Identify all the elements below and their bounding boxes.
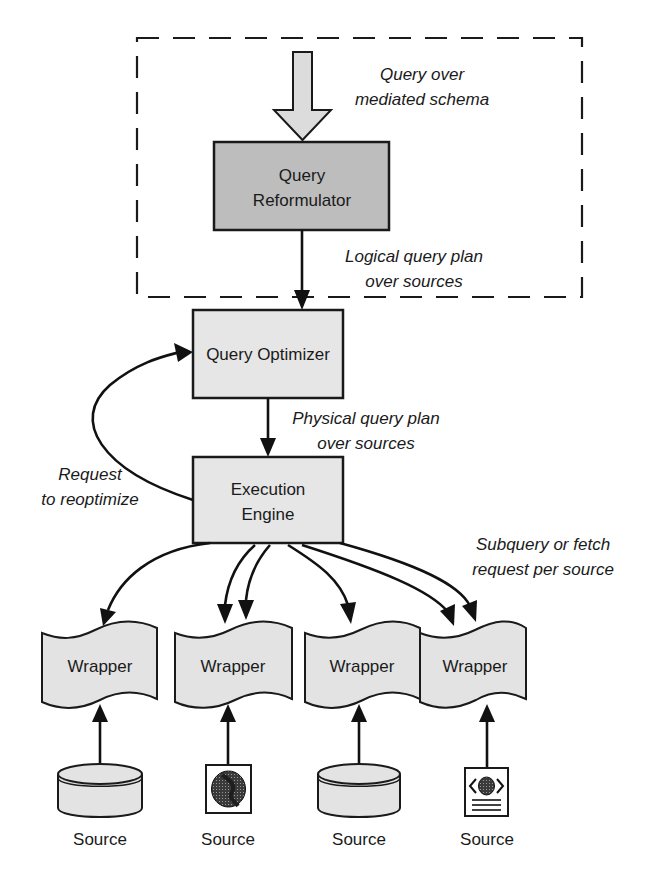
reformulator-label-line2: Reformulator	[253, 191, 352, 210]
subquery-edge-3	[288, 545, 348, 605]
reoptimize-label-line1: Request	[58, 465, 123, 484]
arrowhead-icon	[220, 704, 236, 722]
source-node-4[interactable]: Source	[460, 768, 514, 849]
source-label: Source	[73, 830, 127, 849]
web-document-icon	[465, 768, 508, 816]
source-label: Source	[332, 830, 386, 849]
arrowhead-icon	[92, 704, 108, 722]
query-reformulator-node[interactable]: Query Reformulator	[214, 142, 389, 230]
input-label-line2: mediated schema	[355, 90, 489, 109]
arrowhead-icon	[260, 438, 276, 457]
arrowhead-icon	[217, 604, 233, 624]
arrowhead-icon	[294, 290, 310, 310]
subquery-edge-4a	[302, 545, 448, 612]
wrapper-label: Wrapper	[443, 657, 508, 676]
engine-label-line1: Execution	[231, 480, 306, 499]
subquery-edge-4b	[340, 543, 470, 606]
source-label: Source	[460, 830, 514, 849]
subquery-label-line1: Subquery or fetch	[476, 535, 610, 554]
source-node-1[interactable]: Source	[58, 764, 142, 849]
query-optimizer-node[interactable]: Query Optimizer	[193, 310, 343, 398]
source-node-2[interactable]: Source	[201, 765, 255, 849]
query-input-arrow-icon	[274, 52, 331, 140]
wrapper-node-1[interactable]: Wrapper	[42, 621, 157, 707]
arrowhead-icon	[174, 343, 193, 362]
database-cylinder-icon	[318, 764, 400, 817]
source-label: Source	[201, 830, 255, 849]
reoptimize-label-line2: to reoptimize	[41, 490, 138, 509]
database-cylinder-icon	[58, 764, 142, 817]
data-integration-architecture-diagram: Query over mediated schema Query Reformu…	[0, 0, 656, 872]
arrowhead-icon	[340, 602, 356, 624]
wrapper-label: Wrapper	[68, 657, 133, 676]
source-node-3[interactable]: Source	[318, 764, 400, 849]
subquery-edge-2b	[246, 545, 270, 600]
arrowhead-icon	[351, 704, 367, 722]
wrapper-label: Wrapper	[330, 657, 395, 676]
arrowhead-icon	[479, 704, 495, 722]
subquery-edge-1	[108, 543, 210, 610]
logical-label-line2: over sources	[365, 272, 463, 291]
arrowhead-icon	[238, 600, 254, 620]
input-label-line1: Query over	[380, 65, 465, 84]
globe-icon	[206, 765, 251, 813]
arrowhead-icon	[462, 600, 477, 622]
physical-label-line2: over sources	[317, 434, 415, 453]
optimizer-label: Query Optimizer	[206, 345, 330, 364]
wrapper-node-4[interactable]: Wrapper	[420, 621, 526, 707]
physical-label-line1: Physical query plan	[292, 409, 439, 428]
subquery-label-line2: request per source	[472, 560, 614, 579]
execution-engine-node[interactable]: Execution Engine	[193, 457, 343, 543]
wrapper-label: Wrapper	[201, 657, 266, 676]
engine-label-line2: Engine	[242, 505, 295, 524]
wrapper-node-3[interactable]: Wrapper	[305, 621, 420, 707]
wrapper-node-2[interactable]: Wrapper	[175, 621, 292, 707]
logical-label-line1: Logical query plan	[345, 247, 483, 266]
reformulator-label-line1: Query	[279, 166, 326, 185]
